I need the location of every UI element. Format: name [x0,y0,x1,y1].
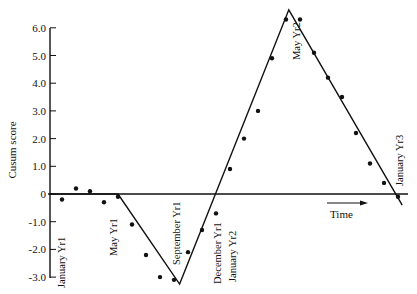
month-label: January Yr3 [394,135,405,186]
x-axis-title: Time [330,208,353,220]
cusum-chart: Cusum score 6.05.04.03.02.01.00-1.0-2.0-… [0,0,417,294]
y-axis-ticks: 6.05.04.03.02.01.00-1.0-2.0-3.0 [29,22,56,283]
data-point [158,275,162,279]
data-point [186,250,190,254]
data-point [60,197,64,201]
data-point [102,200,106,204]
data-point [326,75,330,79]
data-point [340,95,344,99]
month-label: December Yr1 [212,222,223,284]
data-point [396,195,400,199]
y-axis-title: Cusum score [6,121,18,178]
data-point [214,211,218,215]
data-point [172,278,176,282]
data-point [298,17,302,21]
data-point [354,131,358,135]
data-point [284,17,288,21]
trend-line [48,10,402,284]
data-point [200,228,204,232]
y-tick-label: 3.0 [32,105,46,117]
data-point [74,186,78,190]
y-tick-label: 5.0 [32,50,46,62]
y-tick-label: -3.0 [29,271,47,283]
y-tick-label: 4.0 [32,77,46,89]
data-point [270,56,274,60]
data-point [130,222,134,226]
y-tick-label: 2.0 [32,133,46,145]
data-point [382,181,386,185]
y-tick-label: 1.0 [32,160,46,172]
time-arrow-icon [327,201,368,206]
month-label: January Yr2 [227,231,238,282]
data-point [368,161,372,165]
data-point [88,189,92,193]
y-tick-label: 6.0 [32,22,46,34]
data-point [312,51,316,55]
month-label: January Yr1 [56,237,67,288]
month-label: September Yr1 [171,202,182,265]
data-point [242,136,246,140]
y-tick-label: -2.0 [29,243,47,255]
month-label: May Yr2 [291,22,302,60]
data-point [144,253,148,257]
y-tick-label: 0 [41,188,47,200]
data-point [256,109,260,113]
month-label: May Yr1 [108,218,119,256]
y-tick-label: -1.0 [29,216,47,228]
data-point [228,167,232,171]
data-point [116,195,120,199]
